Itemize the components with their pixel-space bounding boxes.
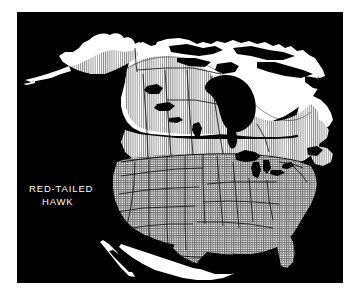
range-map-figure: RED-TAILED HAWK bbox=[0, 0, 362, 302]
north-america-range-map bbox=[17, 12, 343, 283]
map-panel: RED-TAILED HAWK bbox=[17, 12, 343, 283]
